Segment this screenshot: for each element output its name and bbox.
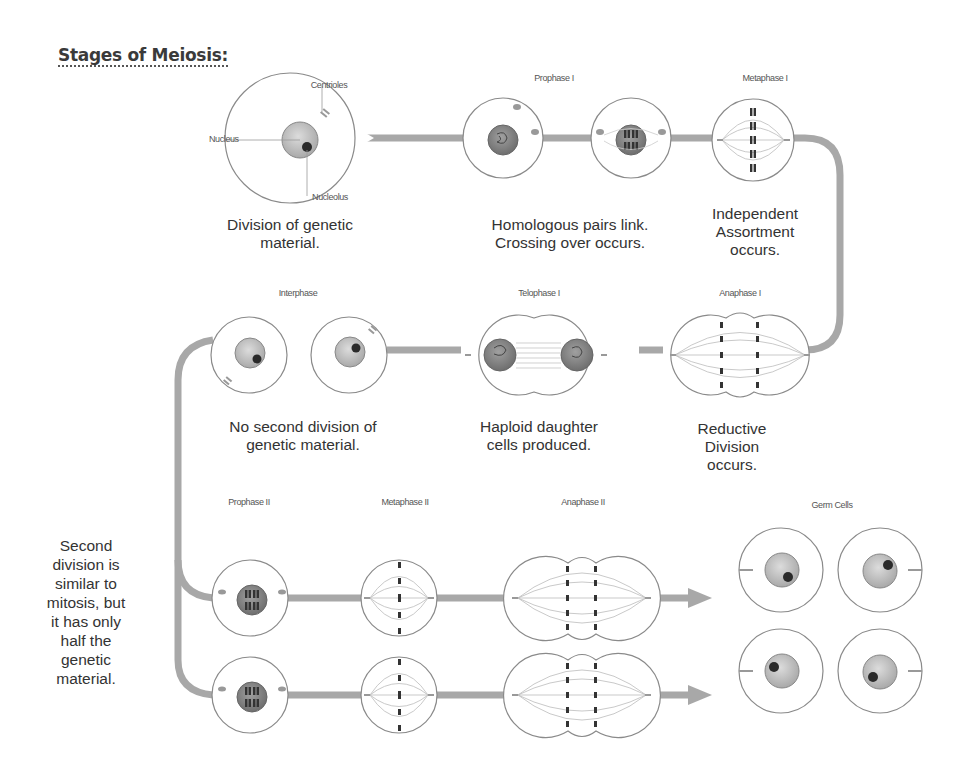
cell-anaphase-ii-upper xyxy=(504,557,661,641)
stage-prophase-i: Prophase I xyxy=(534,73,574,83)
pathway-tail-icon xyxy=(362,131,374,145)
cell-initial xyxy=(225,73,355,203)
cell-prophase-ii-lower xyxy=(212,657,288,733)
cell-anaphase-i xyxy=(670,313,810,397)
cell-prophase-i-b xyxy=(591,98,671,178)
cell-prophase-i-a xyxy=(463,98,543,178)
desc-division-genetic-material: Division of genetic material. xyxy=(227,216,353,252)
desc-reductive-division: Reductive Division occurs. xyxy=(698,420,767,474)
page-title: Stages of Meiosis: xyxy=(58,46,228,67)
cell-interphase-b xyxy=(311,317,387,393)
germ-cell-2 xyxy=(838,528,922,612)
desc-homologous-pairs: Homologous pairs link. Crossing over occ… xyxy=(492,216,649,252)
stage-anaphase-ii: Anaphase II xyxy=(561,497,605,507)
cell-metaphase-ii-upper xyxy=(361,560,437,636)
stage-metaphase-i: Metaphase I xyxy=(742,73,787,83)
stage-interphase: Interphase xyxy=(279,288,318,298)
cell-metaphase-i xyxy=(712,99,794,181)
label-nucleolus: Nucleolus xyxy=(312,192,348,202)
arrowhead-icon xyxy=(688,685,712,705)
stage-germ-cells: Germ Cells xyxy=(811,500,852,510)
side-note-second-division: Second division is similar to mitosis, b… xyxy=(40,536,132,688)
cell-metaphase-ii-lower xyxy=(361,657,437,733)
germ-cells xyxy=(739,528,922,713)
cell-interphase-a xyxy=(211,317,287,393)
label-centrioles: Centrioles xyxy=(311,80,348,90)
cell-prophase-ii-upper xyxy=(212,560,288,636)
cell-anaphase-ii-lower xyxy=(504,654,661,738)
track-upper xyxy=(212,557,660,641)
germ-cell-4 xyxy=(838,629,922,713)
stage-anaphase-i: Anaphase I xyxy=(719,288,761,298)
meiosis-diagram xyxy=(0,0,962,772)
desc-haploid-daughter-cells: Haploid daughter cells produced. xyxy=(480,418,598,454)
desc-independent-assortment: Independent Assortment occurs. xyxy=(712,205,798,259)
desc-no-second-division: No second division of genetic material. xyxy=(229,418,376,454)
stage-telophase-i: Telophase I xyxy=(518,288,560,298)
track-lower xyxy=(212,654,660,738)
arrowhead-icon xyxy=(688,588,712,608)
stage-metaphase-ii: Metaphase II xyxy=(381,497,428,507)
germ-cell-3 xyxy=(739,629,823,713)
germ-cell-1 xyxy=(739,528,823,612)
stage-prophase-ii: Prophase II xyxy=(228,497,270,507)
label-nucleus: Nucleus xyxy=(209,134,239,144)
cell-telophase-i xyxy=(465,315,607,395)
